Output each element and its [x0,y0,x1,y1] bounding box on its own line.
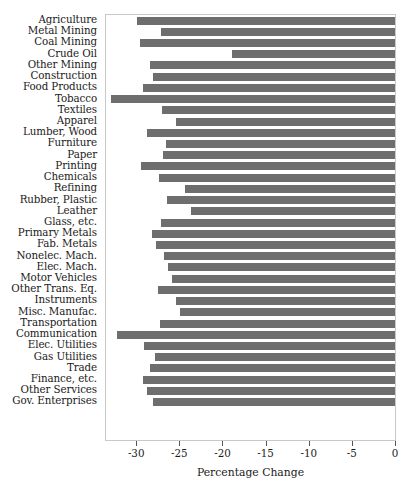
bar [147,129,395,137]
bar [141,162,395,170]
bar-row [106,206,395,217]
bar [176,297,395,305]
x-tick [222,441,223,446]
bar-row [106,396,395,407]
bar [176,118,395,126]
category-label: Refining [0,182,101,193]
bar [111,95,395,103]
bar [167,196,395,204]
category-label-column: AgricultureMetal MiningCoal MiningCrude … [0,14,101,407]
x-tick [179,441,180,446]
bar [172,275,395,283]
bar-row [106,71,395,82]
x-tick-label: -25 [171,447,188,459]
bar-chart: AgricultureMetal MiningCoal MiningCrude … [0,0,414,491]
bar-row [106,82,395,93]
bar [164,252,395,260]
bar [137,17,395,25]
x-tick-label: -30 [128,447,145,459]
category-label: Furniture [0,137,101,148]
bar-row [106,251,395,262]
bar-row [106,172,395,183]
bar-row [106,161,395,172]
bar-row [106,26,395,37]
bar-row [106,385,395,396]
bar-row [106,15,395,26]
bar [158,286,395,294]
category-label: Food Products [0,81,101,92]
bar-row [106,273,395,284]
x-tick-label: -10 [300,447,317,459]
bar [168,263,395,271]
x-tick [266,441,267,446]
bar-row [106,284,395,295]
bar-row [106,183,395,194]
bar [191,207,395,215]
x-tick [352,441,353,446]
category-label: Elec. Utilities [0,339,101,350]
x-tick-label: -15 [257,447,274,459]
bar [163,151,395,159]
category-label: Gov. Enterprises [0,395,101,406]
bar-row [106,307,395,318]
category-label: Coal Mining [0,36,101,47]
bar [161,28,395,36]
category-label: Fab. Metals [0,238,101,249]
bars-layer [106,15,395,440]
bar-row [106,127,395,138]
bar [117,331,395,339]
bar [143,376,395,384]
x-tick-label: 0 [392,447,399,459]
bar [150,61,395,69]
bar-row [106,295,395,306]
bar [143,84,395,92]
bar-row [106,363,395,374]
bar [147,387,395,395]
x-axis: -30-25-20-15-10-50 [105,441,396,442]
x-axis-title: Percentage Change [105,466,396,479]
plot-panel [105,14,396,441]
bar-row [106,37,395,48]
bar [180,308,395,316]
category-label: Instruments [0,294,101,305]
x-tick [136,441,137,446]
bar [144,342,395,350]
bar-row [106,262,395,273]
bar [160,320,395,328]
bar-row [106,150,395,161]
bar [140,39,395,47]
bar [166,140,395,148]
x-tick [395,441,396,446]
bar-row [106,329,395,340]
bar [159,174,395,182]
bar [155,353,395,361]
bar-row [106,228,395,239]
bar-row [106,340,395,351]
x-tick-label: -5 [347,447,357,459]
bar-row [106,318,395,329]
bar [232,50,395,58]
bar [161,219,395,227]
bar-row [106,217,395,228]
bar-row [106,60,395,71]
x-tick-label: -20 [214,447,231,459]
bar [153,73,395,81]
bar-row [106,138,395,149]
bar [156,241,395,249]
bar [150,364,395,372]
bar [162,106,395,114]
bar [153,398,395,406]
bar-row [106,374,395,385]
bar-row [106,105,395,116]
bar-row [106,94,395,105]
bar-row [106,116,395,127]
bar-row [106,239,395,250]
bar [185,185,395,193]
bar-row [106,195,395,206]
bar-row [106,49,395,60]
bar-row [106,352,395,363]
x-tick [309,441,310,446]
bar [152,230,395,238]
